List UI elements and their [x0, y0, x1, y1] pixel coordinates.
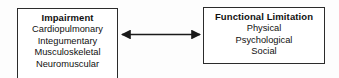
node-functional-limitation-item-1: Psychological — [204, 35, 324, 47]
node-impairment-item-3: Neuromuscular — [18, 59, 117, 71]
node-impairment-item-0: Cardiopulmonary — [18, 24, 117, 36]
node-impairment-item-1: Integumentary — [18, 36, 117, 48]
node-functional-limitation[interactable]: Functional Limitation Physical Psycholog… — [203, 7, 325, 64]
node-functional-limitation-item-0: Physical — [204, 23, 324, 35]
node-impairment-title: Impairment — [18, 12, 117, 24]
node-functional-limitation-item-2: Social — [204, 46, 324, 58]
node-impairment-item-2: Musculoskeletal — [18, 47, 117, 59]
node-impairment[interactable]: Impairment Cardiopulmonary Integumentary… — [17, 8, 118, 78]
double-headed-arrow-icon — [117, 26, 205, 43]
node-functional-limitation-title: Functional Limitation — [204, 11, 324, 23]
diagram-canvas: Impairment Cardiopulmonary Integumentary… — [0, 0, 339, 78]
